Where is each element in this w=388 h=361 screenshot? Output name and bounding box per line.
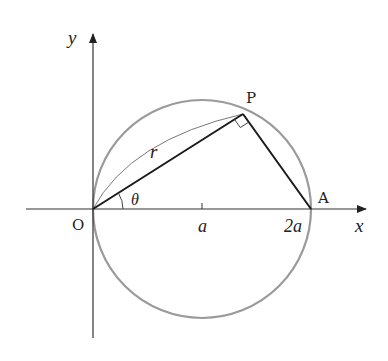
point-A-label: A [317, 189, 329, 207]
angle-theta-arc [118, 193, 123, 209]
segment-label-r: r [150, 141, 158, 162]
angle-label-theta: θ [131, 191, 139, 208]
origin-label: O [72, 216, 84, 234]
y-axis-label: y [66, 27, 77, 48]
tick-label-2a: 2a [284, 216, 302, 236]
x-axis-label: x [354, 215, 364, 236]
point-P-label: P [246, 89, 256, 107]
tick-label-a: a [198, 216, 207, 236]
segment-OP [93, 114, 243, 209]
diagram-canvas: y x O P A a 2a r θ [0, 0, 388, 361]
